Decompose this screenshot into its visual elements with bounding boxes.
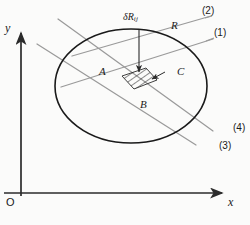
- region-label-r: R: [171, 20, 178, 31]
- sub-region-label: δRij: [123, 12, 138, 23]
- diagram-figure: y x O δRij R A B C (2) (1) (4) (3): [0, 0, 250, 225]
- region-label-c: C: [177, 66, 184, 77]
- region-label-b: B: [140, 99, 147, 110]
- sub-region-label-subscript: ij: [134, 15, 139, 23]
- label-ticks: [205, 16, 214, 41]
- x-axis-label: x: [228, 196, 233, 208]
- region-label-a: A: [99, 66, 106, 77]
- cut-line-family-down: [37, 19, 213, 145]
- sub-region-side-leader: [152, 72, 165, 79]
- cut-line-1-label: (1): [214, 28, 226, 38]
- y-axis-label: y: [5, 22, 10, 34]
- sub-region-label-prefix: δR: [123, 11, 134, 22]
- cut-line-4-label: (4): [233, 123, 245, 133]
- origin-label: O: [6, 197, 15, 208]
- cut-line-3-label: (3): [219, 141, 231, 151]
- cut-line-2-label: (2): [202, 6, 214, 16]
- cut-line-3-stroke: [37, 44, 196, 145]
- diagram-canvas: [0, 0, 250, 225]
